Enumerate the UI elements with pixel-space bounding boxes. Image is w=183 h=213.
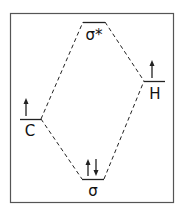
carbon-level: C (20, 98, 41, 140)
arrow-head-icon (150, 60, 155, 66)
arrow-head-icon (24, 98, 29, 104)
carbon-label: C (25, 122, 35, 140)
correlation-lines (41, 22, 144, 179)
sigma-star-level: σ* (83, 23, 105, 45)
sigma-level: σ (82, 159, 104, 200)
hydrogen-label: H (149, 85, 160, 103)
arrow-head-icon (86, 159, 91, 165)
arrow-head-icon (94, 170, 99, 176)
sigma-label: σ (88, 182, 98, 200)
mo-diagram: σ* H C σ (0, 0, 183, 213)
sigma-star-label: σ* (85, 26, 103, 44)
hydrogen-level: H (144, 60, 165, 103)
